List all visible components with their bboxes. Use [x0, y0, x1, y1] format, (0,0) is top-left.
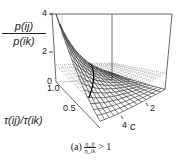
x-tick-0-5: 0.5 — [63, 103, 76, 113]
z-tick-4: 4 — [42, 8, 47, 18]
c-axis-label: c — [130, 120, 136, 132]
figure-caption: (a) η_ij η_ik > 1 — [0, 141, 182, 154]
c-tick-4: 4 — [122, 120, 127, 130]
z-tick-2: 2 — [42, 46, 47, 56]
x-axis-label: τ(ij)/τ(ik) — [4, 114, 43, 126]
eta-fraction: η_ij η_ik — [84, 141, 95, 154]
x-tick-1: 1.0 — [47, 83, 60, 93]
z-axis-label: p(ij) p(ik) — [2, 20, 46, 47]
c-tick-2: 2 — [150, 103, 155, 113]
